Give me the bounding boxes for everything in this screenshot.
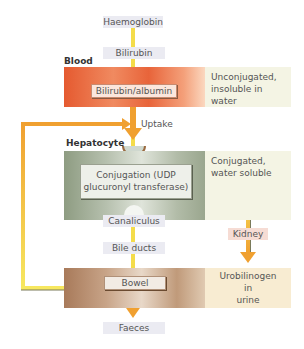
bilirubin-node: Bilirubin: [103, 47, 165, 59]
hepatocyte-note-line-1: Conjugated,: [211, 155, 285, 167]
urine-note-line-3: urine: [209, 294, 287, 306]
blood-note-line-2: insoluble in water: [211, 83, 285, 107]
conjugation-line-2: glucuronyl transferase): [81, 181, 191, 193]
hepatocyte-note: Conjugated, water soluble: [205, 151, 291, 220]
conjugation-line-1: Conjugation (UDP: [81, 169, 191, 181]
blood-note-line-1: Unconjugated,: [211, 71, 285, 83]
bilirubin-albumin-box: Bilirubin/albumin: [91, 84, 177, 98]
kidney-node: Kidney: [228, 228, 268, 240]
haemoglobin-node: Haemoglobin: [103, 16, 163, 28]
faeces-node: Faeces: [103, 322, 165, 334]
uptake-label: Uptake: [141, 119, 173, 129]
urine-note-line-2: in: [209, 282, 287, 294]
hepatocyte-note-line-2: water soluble: [211, 167, 285, 179]
canaliculus-node: Canaliculus: [103, 215, 165, 227]
bowel-box: Bowel: [104, 276, 166, 290]
urine-note-line-1: Urobilinogen: [209, 270, 287, 282]
blood-label: Blood: [64, 56, 93, 66]
blood-note: Unconjugated, insoluble in water: [205, 67, 291, 107]
hepatocyte-label: Hepatocyte: [66, 138, 124, 148]
urine-note: Urobilinogen in urine: [205, 268, 291, 308]
conjugation-box: Conjugation (UDP glucuronyl transferase): [80, 164, 192, 199]
bile-ducts-node: Bile ducts: [103, 242, 165, 254]
